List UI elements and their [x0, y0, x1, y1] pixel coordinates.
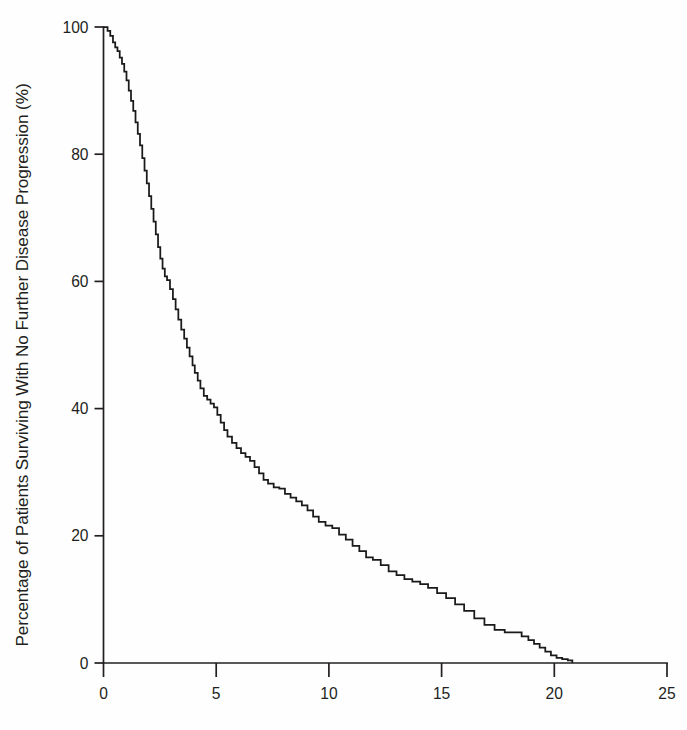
y-axis — [95, 27, 104, 663]
x-axis — [104, 663, 668, 677]
y-tick-label: 20 — [71, 527, 89, 544]
kaplan-meier-figure: Percentage of Patients Surviving With No… — [0, 0, 687, 730]
y-tick-label: 40 — [71, 400, 89, 417]
survival-curve — [104, 27, 573, 663]
x-tick-label: 20 — [546, 685, 564, 702]
x-tick-label: 25 — [658, 685, 676, 702]
x-tick-label: 0 — [99, 685, 108, 702]
y-tick-labels: 020406080100 — [62, 19, 88, 672]
x-tick-labels: 0510152025 — [99, 685, 676, 702]
y-tick-label: 60 — [71, 273, 89, 290]
y-tick-label: 80 — [71, 146, 89, 163]
x-tick-label: 10 — [320, 685, 338, 702]
y-tick-label: 100 — [62, 19, 88, 36]
x-tick-label: 5 — [212, 685, 221, 702]
chart-plot-area: 020406080100 0510152025 — [0, 0, 687, 730]
x-tick-label: 15 — [433, 685, 451, 702]
survival-curve-path — [104, 27, 573, 663]
y-tick-label: 0 — [80, 655, 89, 672]
